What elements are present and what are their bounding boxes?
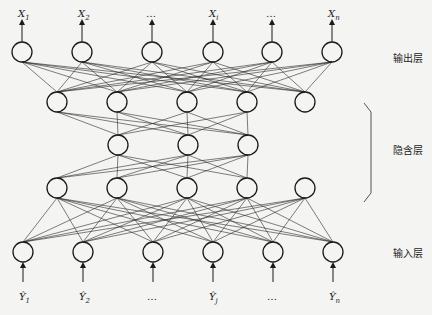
input-variable-label: … <box>147 291 157 302</box>
connection-line <box>57 155 188 178</box>
connection-line <box>57 198 83 242</box>
output-variable-label: … <box>146 8 156 19</box>
hidden-layer-bracket <box>364 103 371 202</box>
connection-line <box>153 198 305 242</box>
connection-line <box>57 198 273 242</box>
connection-line <box>22 62 117 92</box>
output-layer-label: 输出层 <box>393 52 423 64</box>
connection-line <box>117 155 118 178</box>
connection-line <box>247 155 248 178</box>
input-variable-label: … <box>267 291 277 302</box>
connection-line <box>247 112 248 135</box>
connection-line <box>187 112 188 135</box>
input-node <box>203 242 223 262</box>
output-variable-label: Xi <box>208 8 218 22</box>
output-variable-label: X2 <box>77 8 90 22</box>
hidden3-node <box>47 178 67 198</box>
output-node <box>262 42 282 62</box>
connection-line <box>82 62 305 92</box>
hidden2-node <box>238 135 258 155</box>
output-node <box>72 42 92 62</box>
input-variable-label: Ŷ2 <box>79 291 91 305</box>
input-node <box>13 242 33 262</box>
output-node <box>203 42 223 62</box>
input-node <box>143 242 163 262</box>
input-node <box>323 242 343 262</box>
hidden3-node <box>237 178 257 198</box>
connections <box>22 62 333 242</box>
hidden1-node <box>295 92 315 112</box>
output-variable-label: … <box>266 8 276 19</box>
hidden2-node <box>108 135 128 155</box>
connection-line <box>57 198 153 242</box>
connection-line <box>152 62 187 92</box>
output-node <box>322 42 342 62</box>
io-arrows <box>22 22 333 282</box>
connection-line <box>23 198 57 242</box>
output-variable-label: X1 <box>17 8 30 22</box>
connection-line <box>22 62 247 92</box>
hidden-layer-label: 隐含层 <box>393 144 423 156</box>
connection-line <box>57 155 248 178</box>
connection-line <box>117 198 333 242</box>
hidden3-node <box>107 178 127 198</box>
hidden1-node <box>47 92 67 112</box>
output-node <box>142 42 162 62</box>
output-node <box>12 42 32 62</box>
input-node <box>263 242 283 262</box>
hidden1-node <box>237 92 257 112</box>
connection-line <box>305 198 333 242</box>
input-variable-label: Ŷ1 <box>19 291 30 305</box>
neural-network-diagram: X1X2…Xi…XnŶ1Ŷ2…Ŷj…Ŷn 输出层 隐含层 输入层 <box>0 0 432 315</box>
input-variable-label: Ŷj <box>209 291 219 305</box>
connection-line <box>57 198 213 242</box>
connection-line <box>153 198 187 242</box>
hidden3-node <box>177 178 197 198</box>
hidden1-node <box>107 92 127 112</box>
connection-line <box>22 62 57 92</box>
hidden2-node <box>178 135 198 155</box>
connection-line <box>187 155 188 178</box>
input-node <box>73 242 93 262</box>
input-variable-label: Ŷn <box>329 291 341 305</box>
connection-line <box>152 62 305 92</box>
connection-line <box>57 112 188 135</box>
hidden3-node <box>295 178 315 198</box>
connection-line <box>117 112 118 135</box>
input-layer-label: 输入层 <box>393 247 423 259</box>
output-variable-label: Xn <box>327 8 340 22</box>
hidden1-node <box>177 92 197 112</box>
